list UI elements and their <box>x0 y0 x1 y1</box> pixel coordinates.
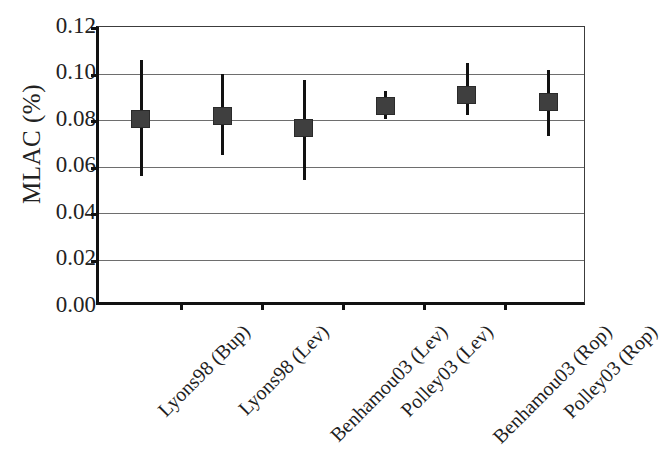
gridline-0.08 <box>99 120 584 121</box>
data-point-marker <box>213 107 232 125</box>
data-point-marker <box>131 110 150 128</box>
y-tick-label-0.08: 0.08 <box>56 107 96 130</box>
y-tick-mark-0.06 <box>91 167 99 170</box>
y-tick-label-0.10: 0.10 <box>56 60 96 83</box>
y-tick-label-0.00: 0.00 <box>56 293 96 316</box>
x-tick-mark-1 <box>180 302 183 310</box>
gridline-0.06 <box>99 167 584 168</box>
y-tick-mark-0.02 <box>91 260 99 263</box>
x-tick-mark-2 <box>261 302 264 310</box>
data-point-marker <box>539 93 558 111</box>
data-point-marker <box>294 119 313 137</box>
gridline-0.10 <box>99 74 584 75</box>
gridline-0.04 <box>99 213 584 214</box>
y-tick-mark-0.10 <box>91 74 99 77</box>
x-tick-mark-3 <box>342 302 345 310</box>
y-tick-mark-0.12 <box>91 27 99 30</box>
y-tick-label-0.04: 0.04 <box>56 200 96 223</box>
plot-area <box>96 26 585 305</box>
y-tick-mark-0.08 <box>91 120 99 123</box>
y-tick-label-0.12: 0.12 <box>56 14 96 37</box>
y-tick-label-0.02: 0.02 <box>56 246 96 269</box>
x-tick-mark-4 <box>423 302 426 310</box>
data-point-marker <box>457 86 476 104</box>
x-tick-mark-5 <box>504 302 507 310</box>
data-point-marker <box>376 97 395 115</box>
gridline-0.02 <box>99 260 584 261</box>
y-tick-mark-0.04 <box>91 213 99 216</box>
y-tick-label-0.06: 0.06 <box>56 153 96 176</box>
y-axis-title: MLAC (%) <box>18 54 46 234</box>
